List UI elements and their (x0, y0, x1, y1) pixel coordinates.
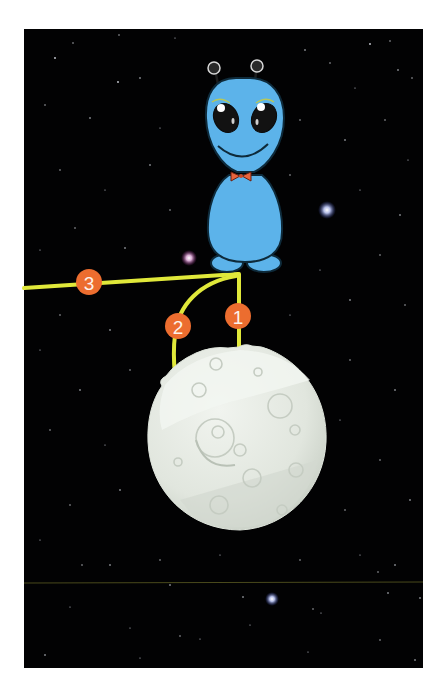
moon (148, 345, 326, 530)
path-badge-1-label: 1 (233, 307, 244, 328)
bright-star-blue (318, 201, 336, 219)
path-badge-1[interactable]: 1 (225, 303, 251, 329)
bright-star-pink (181, 250, 197, 266)
path-badge-2-label: 2 (173, 317, 184, 338)
divider-line (24, 582, 423, 583)
space-scene: 3 2 1 (0, 0, 445, 696)
path-badge-3-label: 3 (84, 273, 95, 294)
alien (206, 60, 284, 272)
path-badge-3[interactable]: 3 (76, 269, 102, 295)
bright-star-bottom (265, 592, 279, 606)
path-badge-2[interactable]: 2 (165, 313, 191, 339)
